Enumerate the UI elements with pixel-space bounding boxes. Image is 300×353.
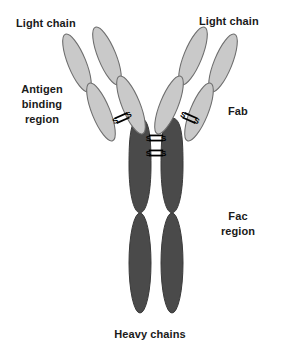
label-fc-region: Fac region — [210, 209, 266, 239]
label-heavy-chains: Heavy chains — [96, 327, 204, 342]
label-antigen-binding-region: Antigen binding region — [10, 82, 74, 127]
antibody-structure-illustration: S S — [0, 0, 300, 353]
label-fab: Fab — [228, 104, 248, 119]
heavy-chain-right-ch3-domain — [161, 213, 183, 313]
label-light-chain-right: Light chain — [199, 14, 259, 29]
heavy-chain-right-ch2-domain — [161, 118, 183, 213]
label-light-chain-left: Light chain — [16, 16, 76, 31]
heavy-chain-left-ch3-domain — [129, 213, 151, 313]
antibody-diagram-figure: S S — [0, 0, 300, 353]
